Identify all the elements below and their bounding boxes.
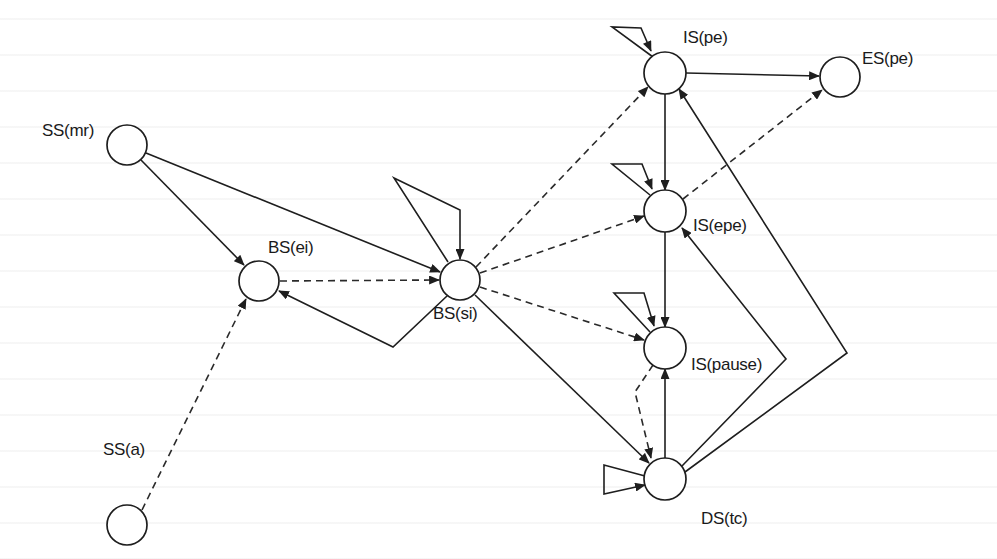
node-label-is-pe: IS(pe) — [683, 28, 728, 48]
node-bs-si — [440, 260, 480, 300]
edge-bs-ei-to-bs-si — [280, 280, 439, 281]
edge-bs-si-to-is-epe — [480, 216, 644, 273]
edge-bs-si-to-is-pause — [480, 287, 644, 340]
node-is-pause — [644, 327, 686, 369]
edge-ds-tc-to-is-pe — [679, 89, 847, 472]
node-label-is-epe: IS(epe) — [693, 216, 747, 236]
graph-canvas — [0, 0, 997, 559]
node-label-ds-tc: DS(tc) — [701, 509, 747, 529]
edge-is-epe-to-es-pe — [683, 90, 822, 199]
node-label-is-pause: IS(pause) — [691, 355, 762, 375]
edge-is-pe-to-es-pe — [686, 73, 819, 76]
edge-ss-mr-to-bs-ei — [141, 160, 244, 265]
node-label-bs-si: BS(si) — [433, 304, 477, 324]
edge-is-pe-to-is-pe-self-loop — [612, 27, 653, 57]
node-bs-ei — [239, 261, 279, 301]
node-es-pe — [820, 57, 860, 97]
edge-bs-si-to-is-pe — [476, 87, 648, 267]
edge-is-pause-to-is-pause-self-loop — [614, 293, 654, 332]
node-is-pe — [644, 52, 686, 94]
node-label-ss-mr: SS(mr) — [42, 121, 94, 141]
nodes-layer — [107, 52, 860, 545]
edge-bs-si-to-ds-tc — [475, 295, 649, 463]
edge-is-pause-to-ds-tc — [635, 365, 653, 458]
edge-is-epe-to-is-epe-self-loop — [612, 164, 652, 195]
node-ss-mr — [107, 125, 147, 165]
edge-ds-tc-to-is-epe — [682, 228, 786, 466]
node-ss-a — [107, 505, 147, 545]
edge-ss-a-to-bs-ei — [142, 299, 246, 510]
node-ds-tc — [644, 458, 686, 500]
node-label-es-pe: ES(pe) — [862, 49, 913, 69]
edge-bs-si-to-bs-si-self-loop — [394, 178, 460, 262]
state-diagram: SS(mr)BS(ei)BS(si)SS(a)IS(pe)ES(pe)IS(ep… — [0, 0, 997, 559]
node-is-epe — [644, 190, 686, 232]
node-label-ss-a: SS(a) — [103, 440, 145, 460]
node-label-bs-ei: BS(ei) — [268, 238, 313, 258]
edge-ds-tc-to-ds-tc-self-loop — [604, 465, 645, 494]
edge-bs-si-to-bs-ei — [279, 291, 447, 347]
